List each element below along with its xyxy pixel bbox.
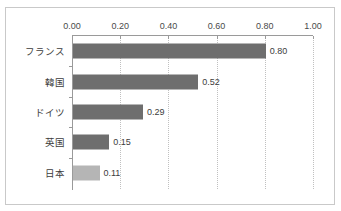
x-axis-tick-label: 0.20 <box>111 21 129 31</box>
x-axis-tick-label: 1.00 <box>304 21 322 31</box>
gridline <box>265 36 266 189</box>
x-axis-tick-label: 0.00 <box>63 21 81 31</box>
x-axis-tick-label: 0.60 <box>208 21 226 31</box>
gridline <box>168 36 169 189</box>
category-label: フランス <box>25 44 65 58</box>
category-label: 韓国 <box>45 75 65 89</box>
y-axis-tick <box>69 158 72 159</box>
bar-value-label: 0.29 <box>147 107 165 117</box>
bar <box>73 74 198 89</box>
x-axis-tick <box>120 36 121 39</box>
x-axis-tick <box>313 36 314 39</box>
category-label: 日本 <box>45 166 65 180</box>
x-axis-tick-label: 0.40 <box>160 21 178 31</box>
category-label: ドイツ <box>35 105 65 119</box>
x-axis-tick <box>168 36 169 39</box>
x-axis-tick <box>72 36 73 39</box>
bar <box>73 105 143 120</box>
x-axis-tick <box>217 36 218 39</box>
bar <box>73 44 266 59</box>
bar-chart-figure: 0.000.200.400.600.801.00 フランス韓国ドイツ英国日本 0… <box>0 0 341 211</box>
x-axis-tick-label: 0.80 <box>256 21 274 31</box>
gridline <box>217 36 218 189</box>
y-axis-tick <box>69 97 72 98</box>
x-axis-line <box>72 35 313 36</box>
category-label: 英国 <box>45 135 65 149</box>
bar <box>73 165 100 180</box>
gridline <box>313 36 314 189</box>
y-axis-tick <box>69 127 72 128</box>
x-axis-tick <box>265 36 266 39</box>
bar-value-label: 0.80 <box>270 46 288 56</box>
y-axis-tick <box>69 66 72 67</box>
bar <box>73 135 109 150</box>
bar-value-label: 0.52 <box>202 77 220 87</box>
bar-value-label: 0.15 <box>113 137 131 147</box>
bar-value-label: 0.11 <box>104 168 121 178</box>
